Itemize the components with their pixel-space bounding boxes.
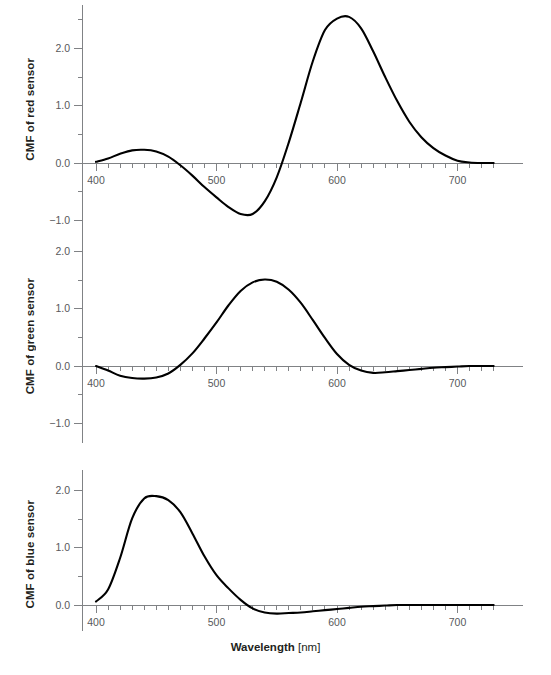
x-tick-label: 700 [449,616,467,628]
y-tick-label: 0.0 [55,360,70,372]
x-tick-label: 500 [208,174,226,186]
y-axis-label-green: CMF of green sensor [24,278,36,394]
y-tick-label: 2.0 [55,484,70,496]
x-tick-label: 600 [328,174,346,186]
y-tick-label: 1.0 [55,302,70,314]
curve-blue [96,496,494,614]
x-axis-label-main: Wavelength [231,641,295,653]
curve-green [96,279,494,378]
x-tick-label: 500 [208,616,226,628]
x-tick-label: 400 [87,616,105,628]
y-axis-label-red: CMF of red sensor [24,58,36,161]
x-tick-label: 600 [328,377,346,389]
x-tick-label: 400 [87,174,105,186]
x-axis-label-unit: [nm] [298,641,320,653]
y-tick-label: 1.0 [55,541,70,553]
x-tick-label: 500 [208,377,226,389]
x-tick-label: 700 [449,174,467,186]
y-tick-label: 0.0 [55,599,70,611]
plot-area-green: 400500600700−1.00.01.02.0 [0,230,551,452]
panel-red-sensor: 400500600700−1.00.01.02.0 [0,0,551,230]
cmf-figure: 400500600700−1.00.01.02.0 CMF of red sen… [0,0,551,675]
panel-green-sensor: 400500600700−1.00.01.02.0 [0,230,551,452]
y-tick-label: 0.0 [55,157,70,169]
y-tick-label: 2.0 [55,245,70,257]
x-axis-label: Wavelength [nm] [0,641,551,653]
x-tick-label: 400 [87,377,105,389]
curve-red [96,16,494,215]
y-tick-label: −1.0 [49,417,70,429]
y-tick-label: −1.0 [49,214,70,226]
y-tick-label: 1.0 [55,99,70,111]
y-tick-label: 2.0 [55,42,70,54]
plot-area-red: 400500600700−1.00.01.02.0 [0,0,551,230]
x-tick-label: 600 [328,616,346,628]
x-tick-label: 700 [449,377,467,389]
y-axis-label-blue: CMF of blue sensor [24,500,36,609]
